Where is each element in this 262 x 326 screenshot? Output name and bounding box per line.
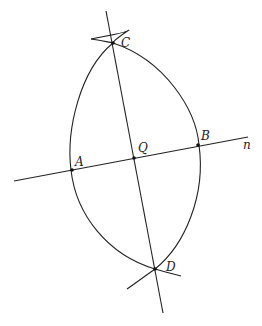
point-b (196, 143, 200, 147)
label-a: A (74, 155, 84, 169)
point-d (153, 267, 157, 271)
arc-tick-c (91, 39, 113, 43)
label-d: D (165, 260, 176, 274)
construction-diagram: C Q B A D n (0, 0, 262, 326)
point-c (111, 41, 115, 45)
label-b: B (200, 129, 210, 143)
label-c: C (121, 36, 130, 50)
point-a (70, 168, 74, 172)
point-q (132, 156, 136, 160)
arc-right (113, 43, 200, 289)
label-n: n (243, 138, 251, 152)
label-q: Q (138, 141, 148, 155)
